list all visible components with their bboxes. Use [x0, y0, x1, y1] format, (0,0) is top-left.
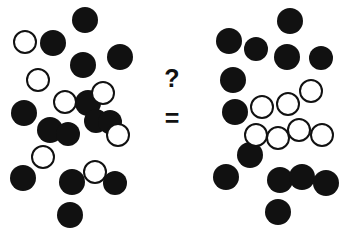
open-dot [53, 90, 77, 114]
center-comparison-symbols: ? = [155, 58, 189, 128]
open-dot [310, 123, 334, 147]
filled-dot [11, 100, 37, 126]
filled-dot [59, 169, 85, 195]
filled-dot [72, 7, 98, 33]
filled-dot [220, 67, 246, 93]
filled-dot [313, 170, 339, 196]
open-dot [106, 123, 130, 147]
filled-dot [265, 199, 291, 225]
open-dot [91, 81, 115, 105]
filled-dot [213, 164, 239, 190]
filled-dot [37, 117, 63, 143]
filled-dot [75, 90, 101, 116]
open-dot [299, 79, 323, 103]
filled-dot [84, 109, 108, 133]
open-dot [83, 160, 107, 184]
question-mark-symbol: ? [164, 66, 179, 91]
filled-dot [56, 122, 80, 146]
open-dot [13, 30, 37, 54]
equals-sign-symbol: = [165, 106, 180, 131]
filled-dot [103, 171, 127, 195]
filled-dot [237, 142, 263, 168]
open-dot [276, 92, 300, 116]
filled-dot [70, 52, 96, 78]
filled-dot [244, 37, 268, 61]
filled-dot [274, 44, 300, 70]
filled-dot [289, 164, 315, 190]
filled-dot [98, 110, 122, 134]
open-dot [250, 95, 274, 119]
open-dot [31, 145, 55, 169]
open-dot [287, 118, 311, 142]
filled-dot [309, 46, 333, 70]
open-dot [26, 68, 50, 92]
open-dot [266, 126, 290, 150]
filled-dot [216, 28, 242, 54]
filled-dot [267, 167, 293, 193]
open-dot [244, 123, 268, 147]
filled-dot [10, 165, 36, 191]
filled-dot [107, 44, 133, 70]
filled-dot [277, 8, 303, 34]
filled-dot [57, 202, 83, 228]
filled-dot [40, 30, 66, 56]
filled-dot [222, 99, 248, 125]
figure-canvas: ? = [0, 0, 347, 237]
